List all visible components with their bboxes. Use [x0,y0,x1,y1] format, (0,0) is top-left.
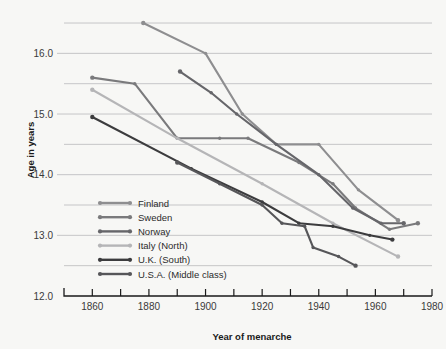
legend-label: U.K. (South) [138,254,190,265]
y-tick-label: 13.0 [34,230,54,241]
legend-marker [128,229,132,233]
x-tick-label: 1920 [251,301,274,312]
legend-label: U.S.A. (Middle class) [138,269,227,280]
data-point [133,82,136,85]
legend-marker [128,201,132,205]
data-point [260,200,263,203]
data-point [260,182,263,185]
legend-marker [128,272,132,276]
data-point [246,137,249,140]
data-point [178,69,182,73]
legend-marker [128,244,132,248]
data-point [351,206,354,209]
data-point [353,263,357,267]
data-point [311,246,314,249]
data-point [235,112,238,115]
data-point [204,52,207,55]
legend-label: Norway [138,226,170,237]
y-tick-label: 14.0 [34,169,54,180]
data-point [357,188,360,191]
x-tick-label: 1860 [81,301,104,312]
data-point [260,203,263,206]
data-point [218,182,221,185]
data-point [90,75,94,79]
x-tick-label: 1880 [138,301,161,312]
y-tick-label: 15.0 [34,109,54,120]
x-tick-label: 1940 [308,301,331,312]
legend-marker [98,201,102,205]
legend-label: Sweden [138,212,172,223]
x-axis-title: Year of menarche [212,331,291,342]
data-point [141,21,145,25]
chart-figure: 1860188019001920194019601980 12.013.014.… [0,0,446,349]
data-point [175,160,179,164]
legend-label: Italy (North) [138,240,188,251]
line-chart-canvas: 1860188019001920194019601980 12.013.014.… [0,0,446,349]
legend-marker [98,272,102,276]
legend-marker [98,215,102,219]
data-point [379,222,382,225]
data-point [388,228,391,231]
data-point [331,182,334,185]
data-point [317,143,320,146]
data-point [396,254,400,258]
data-point [401,221,405,225]
legend-marker [98,258,102,262]
data-point [241,112,244,115]
data-point [396,218,400,222]
data-point [317,173,320,176]
data-point [176,137,179,140]
y-axis-title: Age in years [25,122,36,179]
y-tick-label: 16.0 [34,48,54,59]
data-point [337,255,340,258]
data-point [275,143,278,146]
data-point [331,222,334,225]
y-tick-label: 12.0 [34,291,54,302]
x-tick-label: 1980 [421,301,444,312]
x-tick-label: 1900 [194,301,217,312]
data-point [331,225,334,228]
data-point [210,91,213,94]
legend-marker [98,229,102,233]
legend-label: Finland [138,198,169,209]
data-point [303,225,306,228]
data-point [90,88,94,92]
data-point [390,237,394,241]
data-point [218,137,221,140]
legend-marker [128,215,132,219]
data-point [368,234,371,237]
data-point [90,115,94,119]
legend-marker [98,244,102,248]
data-point [416,221,420,225]
legend-marker [128,258,132,262]
x-tick-label: 1960 [364,301,387,312]
data-point [280,222,283,225]
